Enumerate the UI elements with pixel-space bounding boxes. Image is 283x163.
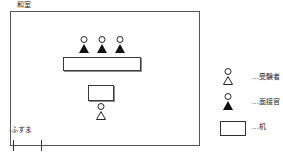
interviewer-figure-2: [96, 36, 108, 55]
interview-room-diagram: 和室 ふすま: [0, 0, 283, 163]
person-head-icon: [225, 68, 232, 75]
room-type-label: 和室: [17, 1, 31, 10]
legend-item-examinee: …受験者: [216, 68, 283, 90]
person-body-icon: [79, 44, 89, 53]
person-head-icon: [117, 36, 124, 43]
fusuma-door-tick-left: [13, 140, 14, 151]
person-body-outline-icon: [96, 111, 107, 120]
person-body-icon: [97, 44, 107, 53]
room-outline: [10, 11, 200, 146]
desk-rectangle-icon: [220, 121, 246, 136]
legend-item-interviewer: …面接官: [216, 93, 283, 115]
examinee-desk: [88, 85, 114, 101]
legend-label-interviewer: …面接官: [252, 98, 280, 107]
interviewer-figure-1: [78, 36, 90, 55]
interviewer-figure-3: [114, 36, 126, 55]
person-body-icon: [115, 44, 125, 53]
person-head-icon: [99, 36, 106, 43]
legend-label-desk: …机: [252, 123, 266, 132]
fusuma-door-tick-right: [41, 140, 42, 151]
person-body-icon: [223, 101, 233, 110]
interviewer-desk: [63, 57, 141, 71]
fusuma-door-label: ふすま: [11, 126, 32, 135]
person-head-icon: [225, 93, 232, 100]
person-head-icon: [81, 36, 88, 43]
person-body-outline-icon: [223, 76, 234, 85]
person-head-icon: [98, 103, 105, 110]
legend-label-examinee: …受験者: [252, 73, 280, 82]
legend-item-desk: …机: [216, 119, 283, 141]
examinee-figure-1: [95, 103, 107, 122]
